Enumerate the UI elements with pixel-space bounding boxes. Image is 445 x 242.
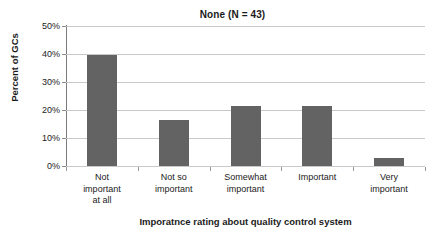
x-axis-tick-label-line: important [210, 184, 282, 196]
x-axis-tick [210, 167, 211, 171]
y-axis-tick-label: 10% [30, 133, 60, 143]
y-axis-tick [62, 110, 66, 111]
y-axis-tick-label: 40% [30, 49, 60, 59]
bar[interactable] [231, 106, 261, 166]
bar-chart-figure: None (N = 43) Percent of GCs 0%10%20%30%… [0, 0, 445, 242]
gridline [66, 166, 425, 167]
gridline [66, 54, 425, 55]
bar[interactable] [87, 55, 117, 166]
x-axis-tick [138, 167, 139, 171]
x-axis-tick-label-line: important [353, 184, 425, 196]
y-axis-tick [62, 138, 66, 139]
x-axis-tick-label: Veryimportant [353, 172, 425, 195]
x-axis-tick-label: Important [281, 172, 353, 184]
y-axis-tick [62, 82, 66, 83]
y-axis-tick [62, 54, 66, 55]
gridline [66, 82, 425, 83]
y-axis-tick-label: 20% [30, 105, 60, 115]
chart-title: None (N = 43) [0, 9, 445, 20]
x-axis-tick [66, 167, 67, 171]
y-axis-tick-labels: 0%10%20%30%40%50% [26, 0, 60, 242]
x-axis-title: Imporatnce rating about quality control … [66, 216, 425, 227]
x-axis-tick [281, 167, 282, 171]
x-axis-tick-label-line: Not so [138, 172, 210, 184]
x-axis-tick-label-line: Somewhat [210, 172, 282, 184]
x-axis-tick-label-line: at all [66, 195, 138, 207]
y-axis-tick-label: 0% [30, 161, 60, 171]
x-axis-tick-label-line: Important [281, 172, 353, 184]
y-axis-tick [62, 26, 66, 27]
plot-area [66, 26, 425, 166]
x-axis-tick [425, 167, 426, 171]
x-axis-tick-label-line: Not [66, 172, 138, 184]
gridline [66, 26, 425, 27]
x-axis-tick-label-line: important [138, 184, 210, 196]
y-axis-tick-label: 30% [30, 77, 60, 87]
x-axis-tick-label: Notimportantat all [66, 172, 138, 207]
x-axis-tick-label: Not soimportant [138, 172, 210, 195]
x-axis-tick-label: Somewhatimportant [210, 172, 282, 195]
y-axis-title: Percent of GCs [9, 8, 20, 128]
bar[interactable] [159, 120, 189, 166]
bar[interactable] [374, 158, 404, 166]
y-axis-tick-label: 50% [30, 21, 60, 31]
x-axis-tick [353, 167, 354, 171]
x-axis-tick-label-line: important [66, 184, 138, 196]
x-axis-tick-label-line: Very [353, 172, 425, 184]
bar[interactable] [302, 106, 332, 166]
